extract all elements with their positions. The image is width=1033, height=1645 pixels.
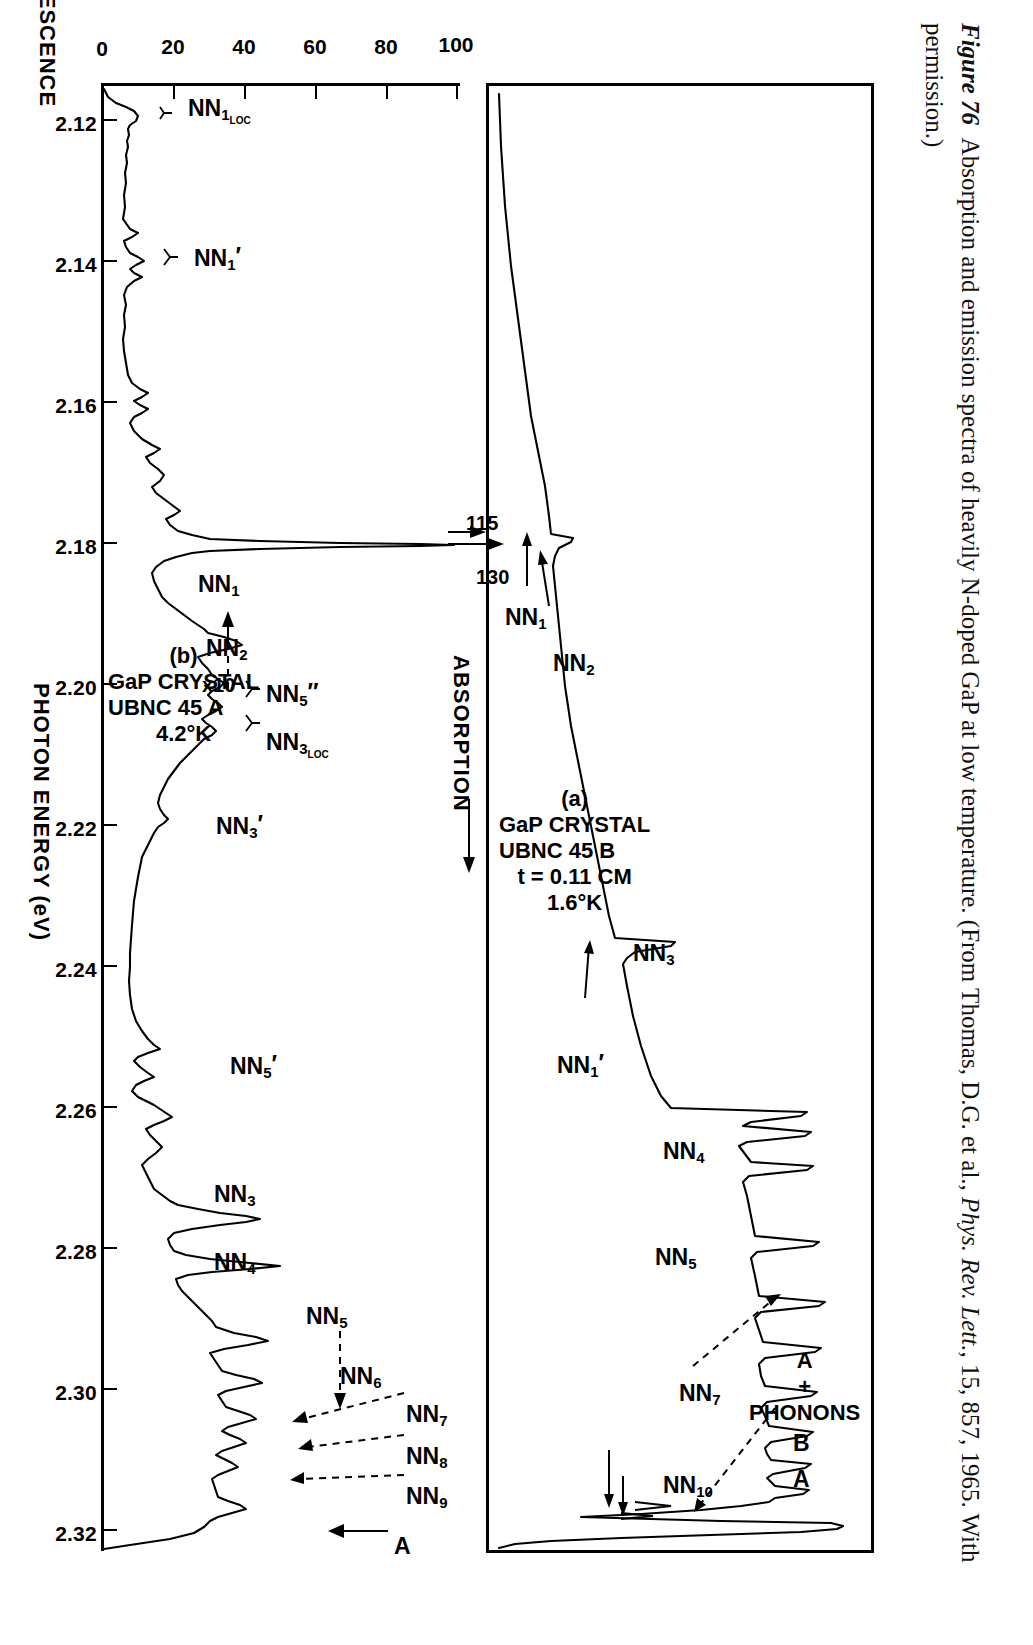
x-axis-title: PHOTON ENERGY (eV)	[28, 683, 54, 941]
absorption-arrow-icon	[458, 795, 480, 885]
brace-nn1loc	[160, 107, 172, 119]
label-b-a: A	[394, 1535, 411, 1558]
label-b-nn1: NN1	[198, 573, 240, 598]
label-a-nn10: NN10	[663, 1474, 713, 1499]
absorption-fine-structure	[621, 1502, 671, 1519]
panel-b-temperature: 4.2°K	[108, 720, 259, 746]
label-a-nn1: NN1	[505, 606, 547, 631]
label-a-nn3: NN3	[633, 942, 675, 967]
label-a-a: A	[793, 1468, 810, 1491]
label-a-a-plus-phonons: A+PHONONS	[749, 1348, 860, 1426]
label-b-nn3: NN3	[214, 1183, 256, 1208]
label-a-b: B	[793, 1432, 810, 1455]
figure-plate: (a) GaP CRYSTAL UBNC 45 B t = 0.11 CM 1.…	[32, 43, 892, 1603]
leader-nn9-b	[290, 1472, 404, 1484]
label-b-115: 115	[466, 513, 498, 533]
figure-caption: Figure 76 Absorption and emission spectr…	[877, 0, 1027, 1645]
brace-nn1prime	[164, 249, 178, 265]
label-b-nn5: NN5	[306, 1305, 348, 1330]
panel-b-sample: UBNC 45 A	[108, 694, 259, 720]
fluorescence-curve	[104, 89, 454, 1549]
panel-a-thickness: t = 0.11 CM	[499, 863, 650, 889]
leader-a-a	[618, 1476, 628, 1516]
panel-b-crystal: GaP CRYSTAL	[108, 668, 259, 694]
panel-a-crystal: GaP CRYSTAL	[499, 811, 650, 837]
y-axis-title-fluorescence: FLUORESCENCE	[34, 0, 60, 107]
label-b-nn1-loc: NN1LOC	[188, 97, 251, 126]
label-b-nn1-prime: NN1′	[194, 245, 241, 273]
label-b-nn3-loc: NN3LOC	[266, 731, 329, 760]
label-b-nn8: NN8	[406, 1445, 448, 1470]
panel-b-fluorescence: 2.12 2.14 2.16 2.18 2.20 2.22 2.24 2.26 …	[52, 83, 460, 1553]
leader-nn2-a	[538, 550, 549, 606]
label-a-nn7: NN7	[679, 1382, 721, 1407]
label-b-nn3-prime: NN3′	[216, 813, 263, 841]
label-b-130: 130	[476, 567, 509, 587]
caption-journal: Phys. Rev. Lett.	[957, 1197, 984, 1351]
label-a-nn4: NN4	[663, 1140, 705, 1165]
panel-a-info-block: (a) GaP CRYSTAL UBNC 45 B t = 0.11 CM 1.…	[499, 786, 650, 916]
label-b-nn5-prime: NN5′	[230, 1053, 277, 1081]
label-b-nn6: NN6	[340, 1365, 382, 1390]
yticklabel-100: 100	[438, 32, 473, 56]
label-a-nn2: NN2	[553, 652, 595, 677]
label-b-nn2: NN2	[206, 637, 248, 662]
panel-a-id: (a)	[499, 786, 650, 812]
yticklabel-80: 80	[374, 34, 397, 58]
leader-nn1-a	[522, 532, 532, 586]
label-b-nn4: NN4	[214, 1251, 256, 1276]
yticklabel-40: 40	[232, 34, 255, 58]
leader-nn7-b	[292, 1393, 404, 1423]
leader-nn8-b	[298, 1435, 404, 1451]
leader-a-b	[328, 1524, 388, 1538]
caption-figure-number: Figure 76	[957, 23, 984, 125]
label-a-nn1-prime: NN1′	[557, 1052, 604, 1080]
label-b-nn9: NN9	[406, 1485, 448, 1510]
leader-b-a	[604, 1450, 614, 1508]
yticklabel-20: 20	[161, 34, 184, 58]
panel-a-absorption: (a) GaP CRYSTAL UBNC 45 B t = 0.11 CM 1.…	[486, 83, 874, 1553]
label-a-nn5: NN5	[655, 1246, 697, 1271]
label-b-x10: x10	[202, 675, 235, 695]
yticklabel-60: 60	[303, 34, 326, 58]
leader-nn1p-a	[584, 940, 594, 998]
yticklabel-0: 0	[96, 36, 108, 60]
caption-text-main: Absorption and emission spectra of heavi…	[957, 137, 984, 1197]
panel-a-sample: UBNC 45 B	[499, 837, 650, 863]
panel-a-temperature: 1.6°K	[499, 889, 650, 915]
label-b-nn5-dprime: NN5″	[266, 681, 319, 709]
label-b-nn7: NN7	[406, 1403, 448, 1428]
